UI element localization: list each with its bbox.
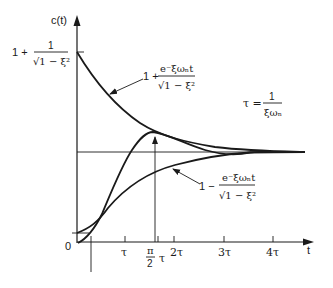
svg-text:τ =: τ = (243, 97, 262, 110)
svg-text:1 −: 1 − (199, 180, 215, 192)
svg-text:e⁻ξωₙt: e⁻ξωₙt (222, 172, 255, 183)
y-axis-label: c(t) (51, 14, 67, 26)
svg-text:√1 − ξ²: √1 − ξ² (219, 190, 256, 201)
upper-start-label: 1 + 1 √1 − ξ² (12, 40, 70, 67)
x-axis-label: t (307, 244, 310, 256)
step-response-curve (78, 132, 305, 243)
lower-envelope-label: 1 − e⁻ξωₙt √1 − ξ² (199, 172, 256, 201)
svg-text:1 +: 1 + (143, 70, 159, 82)
svg-text:√1 − ξ²: √1 − ξ² (158, 80, 195, 91)
svg-text:1 +: 1 + (12, 46, 28, 58)
step-response-envelope-diagram: c(t) t 0 1 + 1 √1 − ξ² 1 + e⁻ξωₙt √1 − ξ… (0, 0, 333, 288)
upper-envelope-label: 1 + e⁻ξωₙt √1 − ξ² (143, 63, 195, 91)
svg-text:1: 1 (48, 40, 54, 51)
svg-text:2: 2 (147, 258, 153, 269)
tick-label-4tau: 4τ (266, 246, 279, 259)
svg-text:1: 1 (269, 91, 275, 102)
svg-text:ξωₙ: ξωₙ (264, 107, 282, 118)
svg-text:e⁻ξωₙt: e⁻ξωₙt (160, 63, 193, 74)
y-axis-arrow-icon (74, 15, 81, 26)
svg-text:√1 − ξ²: √1 − ξ² (33, 56, 70, 67)
upper-envelope-pointer (110, 79, 143, 94)
tick-label-pi2-tau: τ (159, 252, 165, 265)
tick-label-tau: τ (121, 246, 127, 259)
lower-envelope-pointer (173, 169, 200, 184)
tick-label-pi-over-2: π 2 (146, 245, 155, 269)
origin-label: 0 (65, 240, 71, 252)
time-constant-label: τ = 1 ξωₙ (243, 91, 282, 118)
svg-text:π: π (147, 245, 154, 256)
tick-label-2tau: 2τ (170, 246, 183, 259)
tick-label-3tau: 3τ (218, 246, 231, 259)
